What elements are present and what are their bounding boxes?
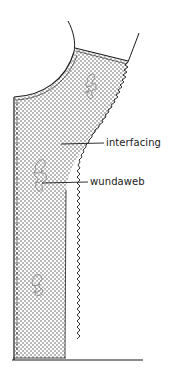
garment-diagram (0, 0, 169, 382)
neck-curve-line (68, 21, 75, 52)
wundaweb-label: wundaweb (90, 177, 145, 187)
facing-piece (15, 49, 128, 358)
shoulder-curve-line (128, 33, 139, 62)
interfacing-label: interfacing (106, 138, 161, 148)
